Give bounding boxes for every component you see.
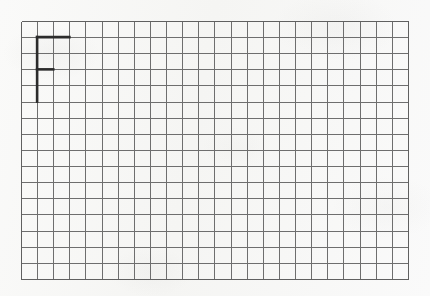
sketch-canvas — [0, 0, 430, 296]
grid-lines — [21, 21, 408, 279]
grid-drawing — [0, 0, 430, 296]
